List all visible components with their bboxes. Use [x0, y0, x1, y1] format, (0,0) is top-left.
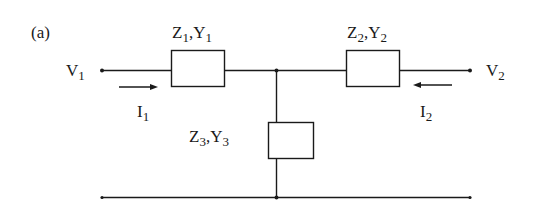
v2-symbol: V	[486, 61, 498, 80]
terminal-ground-left-dot	[100, 196, 103, 199]
v2-subscript: 2	[498, 68, 505, 83]
circuit-schematic	[0, 0, 544, 212]
impedance-z3-label: Z3,Y3	[189, 128, 229, 145]
current-i1-label: I1	[137, 103, 149, 120]
y2-subscript: 2	[380, 30, 387, 45]
y1-symbol: Y	[193, 23, 205, 42]
circuit-diagram: (a) V1 V2 I1 I2 Z1,Y1 Z2,Y2 Z3,Y3	[0, 0, 544, 212]
current-i2-label: I2	[420, 103, 432, 120]
i2-subscript: 2	[426, 109, 433, 124]
y3-symbol: Y	[210, 127, 222, 146]
terminal-v2-dot	[468, 69, 472, 73]
voltage-v2-label: V2	[486, 62, 505, 79]
i1-subscript: 1	[143, 109, 150, 124]
v1-symbol: V	[66, 61, 78, 80]
impedance-z1-label: Z1,Y1	[172, 24, 212, 41]
arrow-right-icon	[150, 84, 158, 90]
impedance-z2-label: Z2,Y2	[347, 24, 387, 41]
v1-subscript: 1	[78, 68, 85, 83]
z1-symbol: Z	[172, 23, 182, 42]
impedance-z1-box	[172, 51, 225, 87]
terminal-v1-dot	[100, 69, 104, 73]
panel-label: (a)	[31, 24, 50, 41]
y1-subscript: 1	[205, 30, 212, 45]
voltage-v1-label: V1	[66, 62, 85, 79]
impedance-z2-box	[347, 51, 400, 87]
terminal-ground-right-dot	[468, 196, 471, 199]
z3-symbol: Z	[189, 127, 199, 146]
z2-symbol: Z	[347, 23, 357, 42]
junction-bottom-dot	[275, 196, 279, 200]
impedance-z3-box	[269, 123, 314, 159]
y3-subscript: 3	[222, 134, 229, 149]
arrow-left-icon	[413, 82, 421, 88]
y2-symbol: Y	[368, 23, 380, 42]
junction-top-dot	[275, 69, 279, 73]
